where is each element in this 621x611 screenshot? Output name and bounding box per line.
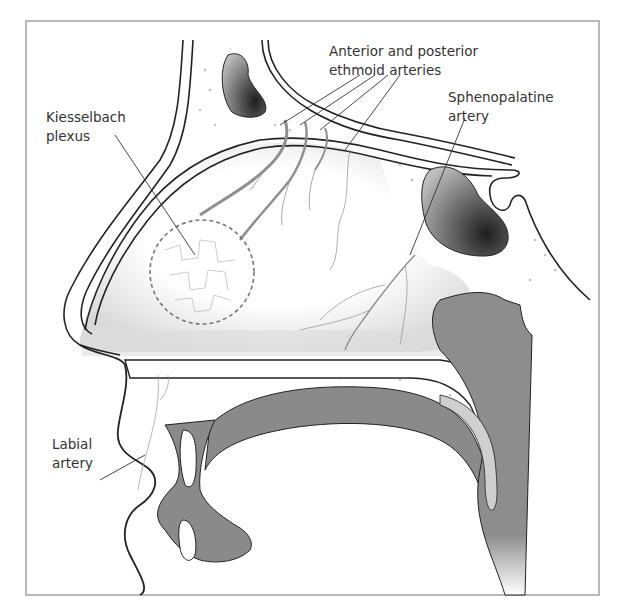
label-kiesselbach-plexus: Kiesselbach plexus [46,108,126,146]
frontal-sinus [222,54,266,118]
label-sphenopalatine-artery: Sphenopalatine artery [448,88,554,126]
label-ethmoid-arteries: Anterior and posterior ethmoid arteries [329,42,478,80]
nasal-mucosa [80,143,473,356]
label-labial-artery: Labial artery [52,435,93,473]
